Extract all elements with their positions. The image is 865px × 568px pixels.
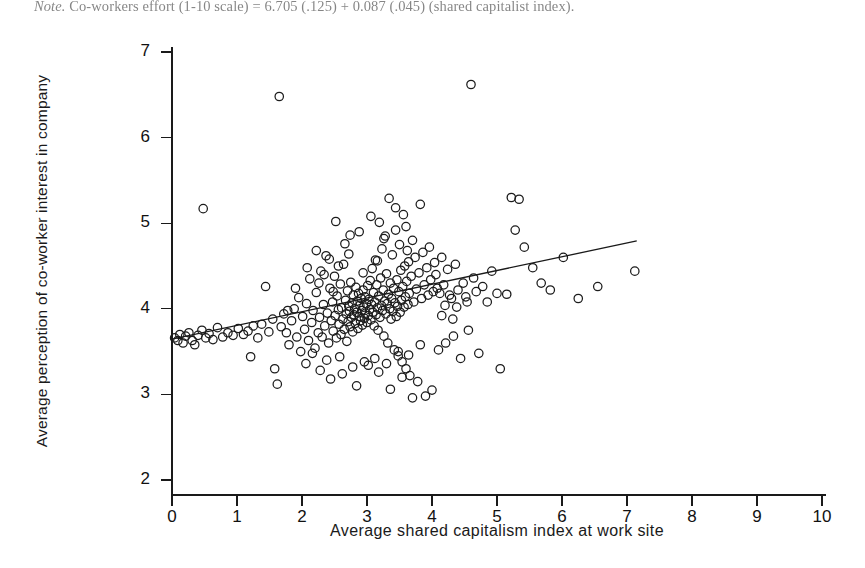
scatter-figure-panel: Note. Co-workers effort (1-10 scale) = 6…	[0, 0, 865, 568]
data-point-marker	[359, 269, 367, 277]
data-point-marker	[261, 282, 269, 290]
data-point-marker	[300, 325, 308, 333]
data-point-marker	[303, 264, 311, 272]
x-tick-label: 9	[742, 507, 772, 527]
data-point-marker	[326, 375, 334, 383]
data-point-marker	[375, 368, 383, 376]
x-tick-label: 2	[287, 507, 317, 527]
x-tick-label: 7	[612, 507, 642, 527]
data-point-marker	[311, 344, 319, 352]
data-point-marker	[406, 371, 414, 379]
data-point-marker	[384, 339, 392, 347]
data-point-marker	[443, 265, 451, 273]
data-point-marker	[428, 386, 436, 394]
x-tick-label: 4	[417, 507, 447, 527]
data-point-marker	[594, 282, 602, 290]
data-point-marker	[378, 245, 386, 253]
data-point-marker	[449, 315, 457, 323]
data-point-marker	[459, 279, 467, 287]
data-point-marker	[475, 349, 483, 357]
x-tick-label: 8	[677, 507, 707, 527]
data-point-marker	[391, 226, 399, 234]
data-point-marker	[382, 270, 390, 278]
data-point-marker	[388, 251, 396, 259]
data-point-layer	[170, 80, 639, 402]
data-point-marker	[416, 200, 424, 208]
data-point-marker	[219, 333, 227, 341]
data-point-marker	[456, 354, 464, 362]
x-tick-label: 6	[547, 507, 577, 527]
data-point-marker	[483, 298, 491, 306]
data-point-marker	[380, 234, 388, 242]
data-point-marker	[302, 299, 310, 307]
data-point-marker	[346, 231, 354, 239]
data-point-marker	[631, 267, 639, 275]
data-point-marker	[330, 272, 338, 280]
y-tick-label: 2	[124, 469, 150, 489]
data-point-marker	[343, 337, 351, 345]
data-point-marker	[254, 334, 262, 342]
data-point-marker	[479, 282, 487, 290]
data-point-marker	[339, 260, 347, 268]
data-point-marker	[546, 286, 554, 294]
x-tick-label: 1	[222, 507, 252, 527]
data-point-marker	[312, 288, 320, 296]
data-point-marker	[434, 346, 442, 354]
data-point-marker	[574, 294, 582, 302]
data-point-marker	[282, 329, 290, 337]
data-point-marker	[379, 286, 387, 294]
data-point-marker	[385, 194, 393, 202]
data-point-marker	[273, 380, 281, 388]
data-point-marker	[287, 317, 295, 325]
data-point-marker	[511, 226, 519, 234]
data-point-marker	[338, 370, 346, 378]
data-point-marker	[285, 341, 293, 349]
data-point-marker	[386, 385, 394, 393]
data-point-marker	[432, 270, 440, 278]
data-point-marker	[302, 359, 310, 367]
data-point-marker	[438, 311, 446, 319]
data-point-marker	[415, 269, 423, 277]
data-point-marker	[427, 276, 435, 284]
data-point-marker	[507, 193, 515, 201]
data-point-marker	[315, 313, 323, 321]
y-tick-label: 6	[124, 127, 150, 147]
data-point-marker	[441, 339, 449, 347]
data-point-marker	[529, 264, 537, 272]
data-point-marker	[323, 309, 331, 317]
data-point-marker	[304, 336, 312, 344]
data-point-marker	[336, 353, 344, 361]
data-point-marker	[441, 301, 449, 309]
data-point-marker	[402, 222, 410, 230]
data-point-marker	[493, 289, 501, 297]
data-point-marker	[416, 341, 424, 349]
data-point-marker	[376, 274, 384, 282]
data-point-marker	[451, 260, 459, 268]
y-tick-label: 7	[124, 41, 150, 61]
data-point-marker	[293, 333, 301, 341]
y-tick-label: 3	[124, 383, 150, 403]
data-point-marker	[336, 280, 344, 288]
data-point-marker	[412, 285, 420, 293]
data-point-marker	[371, 354, 379, 362]
regression-fit-line	[172, 241, 637, 339]
data-point-marker	[399, 210, 407, 218]
data-point-marker	[408, 236, 416, 244]
data-point-marker	[306, 275, 314, 283]
data-point-marker	[393, 276, 401, 284]
data-point-marker	[224, 329, 232, 337]
data-point-marker	[414, 377, 422, 385]
data-point-marker	[398, 373, 406, 381]
x-tick-label: 0	[157, 507, 187, 527]
data-point-marker	[347, 278, 355, 286]
data-point-marker	[199, 204, 207, 212]
data-point-marker	[520, 243, 528, 251]
data-point-marker	[308, 349, 316, 357]
data-point-marker	[425, 243, 433, 251]
data-point-marker	[411, 253, 419, 261]
data-point-marker	[298, 312, 306, 320]
data-point-marker	[316, 366, 324, 374]
data-point-marker	[345, 250, 353, 258]
data-point-marker	[308, 318, 316, 326]
data-point-marker	[404, 351, 412, 359]
